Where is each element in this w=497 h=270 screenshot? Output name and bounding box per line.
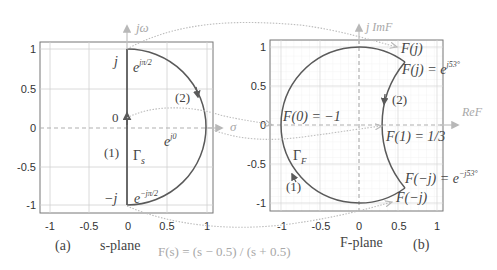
plane-label-s: s-plane: [100, 238, 140, 253]
label-Fmj-eq: F(−j) = e−j53°: [404, 169, 478, 187]
label-F0: F(0) = −1: [282, 109, 341, 125]
label-segment-1-F: (1): [286, 179, 301, 194]
y-tick: 0: [30, 122, 36, 134]
label-minus-j: −j: [104, 191, 117, 206]
panel-label-a: (a): [55, 238, 71, 254]
label-segment-2: (2): [175, 90, 190, 105]
x-tick: -1: [45, 220, 55, 232]
f-plane-plot: 1 0.5 0 -0.5 -1 -1 -0.5 0 0.5 1 j ImF Re…: [247, 20, 483, 253]
y-tick: 0: [260, 119, 266, 131]
x-tick: 0.5: [159, 220, 174, 232]
axis-label-jomega: jω: [134, 20, 149, 35]
plane-label-F: F-plane: [340, 235, 383, 250]
mapping-formula: F(s) = (s − 0.5) / (s + 0.5): [158, 244, 291, 259]
y-tick: 1: [260, 41, 266, 53]
s-y-tick-labels: 1 0.5 0 -0.5 -1: [17, 43, 36, 211]
nyquist-mapping-diagram: 1 0.5 0 -0.5 -1 -1 -0.5 0 0.5 1 jω σ j e…: [0, 0, 497, 270]
label-segment-2-F: (2): [392, 92, 407, 107]
x-tick: 1: [434, 220, 440, 232]
y-tick: 0.5: [21, 83, 36, 95]
x-tick: -0.5: [80, 220, 99, 232]
x-tick: -0.5: [312, 220, 331, 232]
label-segment-1: (1): [104, 145, 119, 160]
x-tick: -1: [277, 220, 287, 232]
label-F1: F(1) = 1/3: [385, 129, 445, 145]
axis-label-sigma: σ: [230, 119, 237, 134]
y-tick: -1: [26, 199, 36, 211]
x-tick: 0: [356, 220, 362, 232]
s-plane-plot: 1 0.5 0 -0.5 -1 -1 -0.5 0 0.5 1 jω σ j e…: [17, 20, 237, 254]
axis-label-ref: ReF: [461, 105, 483, 119]
y-tick: -0.5: [247, 158, 266, 170]
label-Fj-eq: F(j) = ej53°: [401, 60, 461, 78]
s-x-tick-labels: -1 -0.5 0 0.5 1: [45, 220, 210, 232]
panel-label-b: (b): [413, 237, 430, 253]
label-Fj-arrow: F(j): [400, 41, 423, 57]
f-y-tick-labels: 1 0.5 0 -0.5 -1: [247, 41, 266, 209]
label-Fmj-arrow: F(−j): [395, 190, 428, 206]
y-tick: 0.5: [251, 80, 266, 92]
label-origin-0: 0: [112, 110, 119, 125]
y-tick: 1: [30, 43, 36, 55]
x-tick: 0: [125, 220, 131, 232]
y-tick: -1: [256, 197, 266, 209]
x-tick: 0.5: [391, 220, 406, 232]
y-tick: -0.5: [17, 161, 36, 173]
axis-label-jimf: j ImF: [364, 20, 393, 34]
